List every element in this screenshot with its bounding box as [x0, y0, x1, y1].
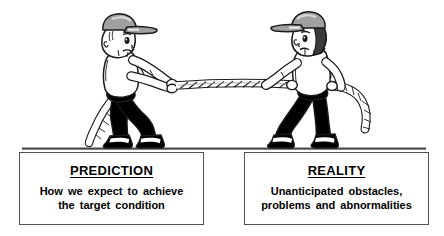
- caption-title-reality: REALITY: [308, 163, 366, 178]
- caption-box-reality: REALITY Unanticipated obstacles, problem…: [244, 152, 429, 225]
- right-boy-shoes: [268, 134, 339, 148]
- ground-line: [22, 148, 426, 150]
- diagram-canvas: PREDICTION How we expect to achieve the …: [0, 0, 444, 236]
- boy-prediction-figure: [89, 14, 177, 148]
- caption-title-prediction: PREDICTION: [70, 163, 153, 178]
- left-boy-shoes: [103, 135, 164, 148]
- caption-body-prediction: How we expect to achieve the target cond…: [40, 185, 184, 212]
- caption-body-reality: Unanticipated obstacles, problems and ab…: [261, 185, 412, 212]
- right-boy-cap: [271, 12, 325, 32]
- boy-reality-figure: [266, 12, 371, 148]
- caption-box-prediction: PREDICTION How we expect to achieve the …: [19, 152, 204, 225]
- left-boy-cap: [103, 14, 157, 34]
